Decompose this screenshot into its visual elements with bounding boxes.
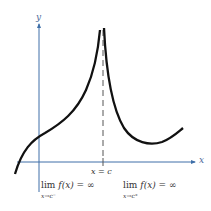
- left-limit-label: lim x→c⁻ f(x) = ∞: [41, 181, 95, 190]
- asymptote-label: x = c: [91, 167, 112, 176]
- curve-right-branch: [104, 28, 183, 144]
- curve-left-branch: [15, 30, 100, 174]
- right-limit-expression: f(x) = ∞: [140, 180, 176, 190]
- right-limit-word: lim: [123, 180, 137, 190]
- y-axis-label: y: [36, 12, 41, 22]
- left-limit-subscript: x→c⁻: [41, 191, 56, 200]
- left-limit-expression: f(x) = ∞: [58, 180, 94, 190]
- graph-canvas: [0, 0, 211, 211]
- right-limit-label: lim x→c⁺ f(x) = ∞: [123, 181, 177, 190]
- left-limit-word: lim: [41, 180, 55, 190]
- x-axis-label: x: [199, 155, 204, 165]
- right-limit-subscript: x→c⁺: [123, 191, 138, 200]
